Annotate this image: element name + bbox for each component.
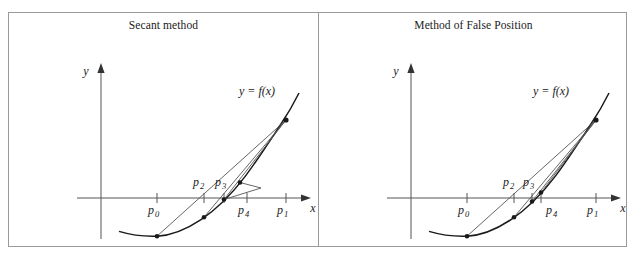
svg-text:p: p: [214, 175, 221, 189]
point-p3-false-position: [530, 199, 535, 204]
false-position-chord-4: [541, 120, 596, 193]
point-p2-false-position: [512, 215, 517, 220]
svg-text:p: p: [545, 203, 552, 217]
svg-text:p: p: [147, 203, 154, 217]
secant-chord-2: [204, 120, 286, 217]
svg-text:2: 2: [200, 181, 205, 191]
svg-text:p: p: [192, 175, 199, 189]
secant-chord-4-lower: [240, 183, 261, 189]
point-p1-secant: [283, 117, 288, 122]
curve-label-secant: y = f(x): [238, 84, 275, 98]
curve-label-false-position: y = f(x): [532, 84, 569, 98]
svg-text:2: 2: [510, 181, 515, 191]
svg-text:4: 4: [553, 209, 558, 219]
panel-false-position: Method of False Position y x: [319, 13, 628, 246]
svg-text:p: p: [522, 175, 529, 189]
svg-text:1: 1: [284, 209, 288, 219]
y-axis-label-secant: y: [82, 64, 89, 78]
secant-method-diagram: y x: [9, 13, 318, 246]
x-axis-label-false-position: x: [619, 201, 626, 215]
svg-text:p: p: [586, 203, 593, 217]
x-axis-secant: [77, 194, 311, 201]
label-p0-secant: p 0: [147, 203, 160, 219]
point-p2-secant: [202, 215, 207, 220]
figure-border: Secant method y x: [8, 12, 627, 247]
label-p4-false-position: p 4: [545, 203, 558, 219]
panel-secant-method: Secant method y x: [9, 13, 318, 246]
point-p0-false-position: [465, 234, 470, 239]
function-curve-secant: [119, 93, 299, 236]
svg-text:p: p: [276, 203, 283, 217]
label-p0-false-position: p 0: [457, 203, 470, 219]
label-p2-false-position: p 2: [502, 175, 515, 191]
x-axis-false-position: [387, 194, 621, 201]
label-p1-false-position: p 1: [586, 203, 598, 219]
label-p3-secant: p 3: [214, 175, 226, 191]
secant-chord-1: [157, 120, 286, 236]
svg-text:p: p: [457, 203, 464, 217]
y-axis-false-position: [407, 63, 414, 239]
false-position-chord-1: [467, 120, 596, 236]
false-position-diagram: y x: [319, 13, 628, 246]
y-axis-secant: [97, 63, 104, 239]
point-p0-secant: [155, 234, 160, 239]
svg-text:3: 3: [221, 181, 226, 191]
false-position-chord-2: [514, 120, 596, 217]
label-p2-secant: p 2: [192, 175, 205, 191]
point-p3-secant: [222, 197, 227, 202]
point-p1-false-position: [593, 117, 598, 122]
svg-text:p: p: [237, 203, 244, 217]
svg-text:3: 3: [529, 181, 534, 191]
svg-text:0: 0: [465, 209, 470, 219]
point-p4-false-position: [539, 190, 544, 195]
svg-text:0: 0: [155, 209, 160, 219]
figure-root: Secant method y x: [0, 0, 637, 258]
svg-text:p: p: [502, 175, 509, 189]
label-p4-secant: p 4: [237, 203, 250, 219]
secant-chord-3: [224, 120, 286, 200]
label-p1-secant: p 1: [276, 203, 288, 219]
svg-text:1: 1: [594, 209, 598, 219]
y-axis-label-false-position: y: [392, 64, 399, 78]
function-curve-false-position: [429, 93, 609, 236]
x-axis-label-secant: x: [309, 201, 316, 215]
point-p4-secant: [238, 180, 243, 185]
svg-text:4: 4: [245, 209, 250, 219]
